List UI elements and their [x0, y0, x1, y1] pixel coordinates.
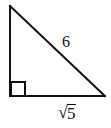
radicand-value: 5 [67, 104, 77, 122]
triangle-drawing [0, 0, 111, 128]
figure-background [0, 0, 111, 128]
square-root-expression: √5 [58, 103, 76, 122]
hypotenuse-length-label: 6 [62, 34, 70, 50]
right-triangle-figure: 6 √5 [0, 0, 111, 128]
base-length-label: √5 [58, 103, 76, 122]
